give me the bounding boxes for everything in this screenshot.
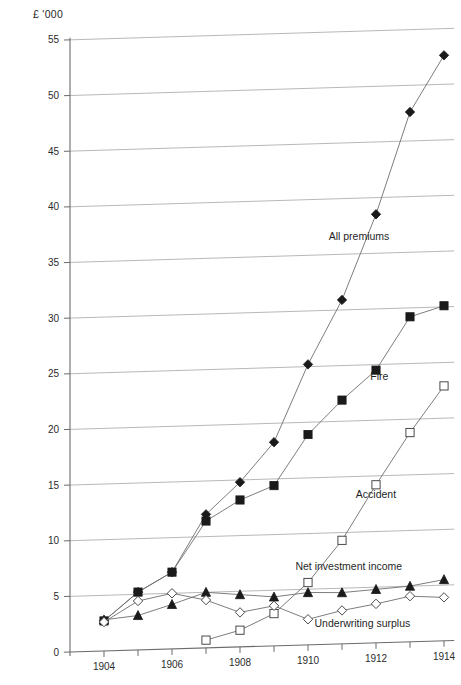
data-series (99, 51, 448, 645)
x-tick-label: 1910 (297, 655, 320, 666)
x-tick-label: 1906 (161, 659, 184, 670)
data-point-marker (202, 517, 210, 525)
series-label: Fire (370, 370, 388, 382)
y-tick-label: 45 (48, 146, 60, 157)
y-tick-label: 30 (48, 313, 60, 324)
y-tick-label: 15 (48, 480, 60, 491)
series-label: Net investment income (295, 560, 402, 572)
data-point-marker (168, 568, 176, 576)
chart-plot-area: 0510152025303540455055 19041906190819101… (0, 0, 461, 685)
series-label: Accident (356, 488, 396, 500)
gridline (70, 84, 454, 96)
data-point-marker (405, 591, 414, 600)
data-point-marker (236, 496, 244, 504)
gridline (70, 529, 454, 541)
data-point-marker (236, 626, 244, 634)
series-line (104, 306, 444, 621)
y-tick-label: 0 (53, 647, 59, 658)
y-tick-label: 50 (48, 90, 60, 101)
data-point-marker (440, 302, 448, 310)
y-tick-label: 10 (48, 535, 60, 546)
data-point-marker (167, 600, 176, 609)
data-point-marker (134, 588, 142, 596)
data-point-marker (235, 608, 244, 617)
data-point-marker (303, 615, 312, 624)
y-tick-label: 5 (53, 591, 59, 602)
gridline (70, 474, 454, 486)
data-point-marker (337, 606, 346, 615)
data-point-marker (304, 578, 312, 586)
data-point-marker (202, 636, 210, 644)
data-point-marker (440, 382, 448, 390)
y-tick-label: 25 (48, 368, 60, 379)
x-tick-label: 1904 (93, 661, 116, 672)
gridline (70, 307, 454, 319)
y-tick-label: 55 (48, 34, 60, 45)
x-tick-label: 1908 (229, 657, 252, 668)
data-point-marker (338, 536, 346, 544)
gridline (70, 28, 454, 40)
gridline (70, 251, 454, 263)
gridlines (70, 28, 454, 596)
x-tick-label: 1912 (365, 653, 388, 664)
series-label: All premiums (329, 230, 390, 242)
data-point-marker (303, 360, 312, 369)
x-tick-label: 1914 (433, 651, 456, 662)
data-point-marker (338, 396, 346, 404)
data-point-marker (337, 295, 346, 304)
y-axis-ticks: 0510152025303540455055 (48, 34, 70, 657)
data-point-marker (133, 596, 142, 605)
data-point-marker (439, 593, 448, 602)
gridline (70, 195, 454, 207)
data-point-marker (133, 611, 142, 620)
chart-figure: £ '000 0510152025303540455055 1904190619… (0, 0, 461, 685)
gridline (70, 362, 454, 374)
gridline (70, 140, 454, 152)
data-point-marker (304, 430, 312, 438)
data-point-marker (270, 482, 278, 490)
y-tick-label: 40 (48, 201, 60, 212)
data-point-marker (371, 210, 380, 219)
x-axis-line (70, 640, 454, 652)
gridline (70, 418, 454, 430)
data-point-marker (201, 595, 210, 604)
series-label: Underwriting surplus (315, 617, 411, 629)
data-point-marker (439, 575, 448, 584)
data-point-marker (167, 589, 176, 598)
data-point-marker (405, 107, 414, 116)
data-point-marker (406, 428, 414, 436)
series-line (104, 55, 444, 621)
gridline (70, 585, 454, 597)
y-tick-label: 35 (48, 257, 60, 268)
y-tick-label: 20 (48, 424, 60, 435)
data-point-marker (371, 599, 380, 608)
data-point-marker (406, 313, 414, 321)
data-point-marker (439, 51, 448, 60)
